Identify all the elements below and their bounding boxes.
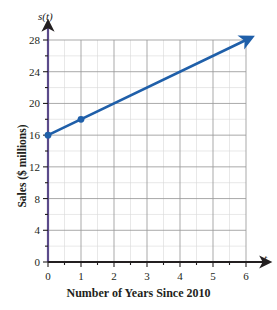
svg-text:2: 2 xyxy=(111,270,117,282)
svg-text:1: 1 xyxy=(78,270,84,282)
svg-text:6: 6 xyxy=(243,270,249,282)
x-tick-labels: 0123456 xyxy=(45,270,249,282)
svg-text:8: 8 xyxy=(35,193,41,205)
svg-text:4: 4 xyxy=(35,224,41,236)
svg-text:0: 0 xyxy=(35,256,41,268)
svg-text:24: 24 xyxy=(29,66,41,78)
svg-text:5: 5 xyxy=(210,270,216,282)
svg-text:0: 0 xyxy=(45,270,51,282)
y-tick-labels: 0481216202428 xyxy=(29,34,41,268)
svg-text:28: 28 xyxy=(29,34,41,46)
chart-figure: s(t) t Sales ($ millions) Number of Year… xyxy=(0,0,277,310)
axis-ticks xyxy=(43,40,246,267)
svg-text:20: 20 xyxy=(29,97,41,109)
svg-text:16: 16 xyxy=(29,129,41,141)
axis-lines xyxy=(48,27,264,262)
svg-text:3: 3 xyxy=(144,270,150,282)
svg-text:12: 12 xyxy=(29,161,40,173)
plot-area: 0481216202428 0123456 xyxy=(0,0,277,310)
svg-text:4: 4 xyxy=(177,270,183,282)
